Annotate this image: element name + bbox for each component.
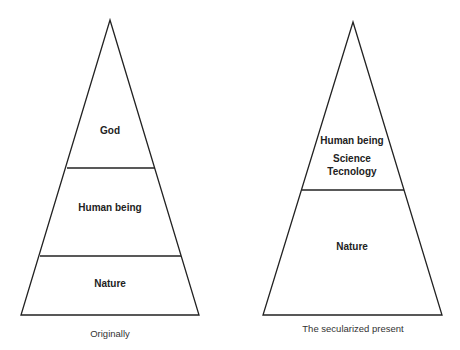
layer-label-human-being: Human being <box>78 202 141 214</box>
caption-secularized-present: The secularized present <box>302 323 403 334</box>
layer-label-nature-right: Nature <box>336 241 368 253</box>
layer-label-nature: Nature <box>94 278 126 290</box>
layer-sublabel-technology: Tecnology <box>327 166 376 178</box>
diagram-canvas <box>0 0 460 350</box>
layer-label-human-being-right: Human being <box>320 135 383 147</box>
layer-sublabel-science: Science <box>333 153 371 165</box>
layer-label-god: God <box>100 125 120 137</box>
caption-originally: Originally <box>90 328 130 339</box>
pyramid-originally <box>21 20 199 315</box>
